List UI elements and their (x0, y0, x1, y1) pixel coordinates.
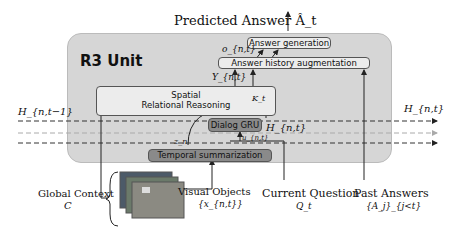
u-symbol: u_{n,t} (242, 134, 268, 142)
temporal-summarization-block: Temporal summarization (148, 149, 272, 162)
global-context-label: Global Context (38, 188, 114, 199)
spatial-label-1: Spatial (97, 90, 275, 100)
past-answers-symbol: {A_j}_{j<t} (366, 201, 421, 211)
k-symbol: K_t (252, 94, 265, 103)
answer-generation-block: Answer generation (247, 37, 331, 49)
context-brace (106, 172, 118, 226)
spatial-reasoning-block: Spatial Relational Reasoning (96, 86, 276, 116)
o-symbol: o_{n,t} (222, 44, 256, 54)
visual-objects-label: Visual Objects (178, 186, 251, 197)
current-question-symbol: Q_t (296, 201, 312, 211)
predicted-answer-label: Predicted Answer Â_t (174, 13, 317, 28)
frame-3 (132, 182, 184, 218)
z-symbol: z_n (174, 137, 187, 146)
past-answers-label: Past Answers (354, 187, 429, 200)
answer-history-block: Answer history augmentation (218, 57, 370, 69)
h-in-symbol: H_{n,t−1} (18, 106, 73, 117)
h-inner-symbol: H_{n,t} (266, 122, 306, 133)
object-box (142, 187, 150, 193)
visual-objects-symbol: {x_{n,t}} (198, 199, 243, 209)
dialog-gru-block: Dialog GRU (208, 118, 262, 132)
y-symbol: Y_{n,t} (212, 72, 246, 82)
h-out-symbol: H_{n,t} (404, 103, 444, 114)
spatial-label-2: Relational Reasoning (97, 100, 275, 110)
current-question-label: Current Question (262, 187, 359, 200)
global-context-symbol: C (64, 200, 72, 211)
